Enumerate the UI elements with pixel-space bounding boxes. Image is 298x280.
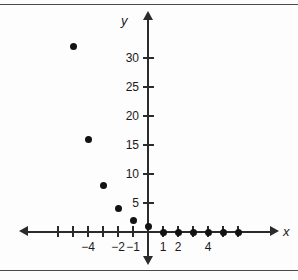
scatter-plot: −4−2−1124 51015202530 x y bbox=[0, 5, 298, 269]
data-point bbox=[190, 229, 197, 236]
data-point bbox=[205, 229, 212, 236]
data-point bbox=[115, 205, 122, 212]
x-axis-label: x bbox=[283, 224, 290, 239]
figure-canvas: −4−2−1124 51015202530 x y bbox=[0, 0, 298, 280]
y-axis-label: y bbox=[121, 13, 128, 28]
data-point bbox=[70, 43, 77, 50]
data-point bbox=[235, 229, 242, 236]
data-point bbox=[100, 182, 107, 189]
data-point bbox=[130, 217, 137, 224]
data-point bbox=[145, 223, 152, 230]
data-point bbox=[85, 136, 92, 143]
data-point bbox=[220, 229, 227, 236]
data-point bbox=[160, 229, 167, 236]
data-point-group bbox=[0, 5, 298, 269]
bottom-divider-rule bbox=[0, 270, 298, 271]
data-point bbox=[175, 229, 182, 236]
